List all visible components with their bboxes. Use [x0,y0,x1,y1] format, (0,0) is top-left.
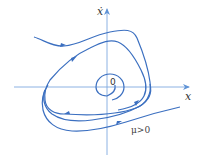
y-axis-label: ẋ [97,6,103,17]
outer-trajectory-bottom [42,85,180,131]
phase-portrait [0,0,216,163]
limit-cycle [45,41,146,114]
outer-trajectory-top [34,30,150,115]
x-axis-label: x [185,91,191,102]
parameter-label: μ>0 [131,126,150,135]
arrow-lower-cycle [64,111,70,114]
origin-label: 0 [110,78,116,87]
